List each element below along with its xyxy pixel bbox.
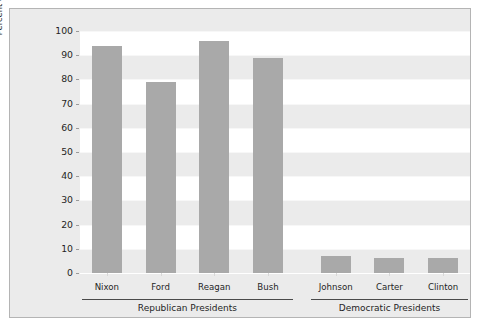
y-tick-mark xyxy=(76,104,79,105)
y-axis-title: Percent of Nominees Affiliated with Repu… xyxy=(0,0,4,45)
x-axis: NixonFordReaganBushJohnsonCarterClintonR… xyxy=(80,273,470,319)
group-label: Democratic Presidents xyxy=(311,303,468,313)
bar xyxy=(92,46,122,273)
plot-area xyxy=(80,31,470,273)
bar xyxy=(428,258,458,273)
y-axis-tick-labels: 0102030405060708090100 xyxy=(43,31,73,273)
y-tick-mark xyxy=(76,128,79,129)
gridline xyxy=(80,55,470,56)
x-tick-mark xyxy=(336,273,337,276)
y-tick-label: 50 xyxy=(47,147,73,156)
x-tick-mark xyxy=(443,273,444,276)
x-tick-label: Carter xyxy=(363,282,417,292)
bar xyxy=(374,258,404,273)
x-tick-mark xyxy=(107,273,108,276)
y-tick-mark xyxy=(76,79,79,80)
y-tick-label: 20 xyxy=(47,220,73,229)
y-tick-mark xyxy=(76,225,79,226)
x-tick-label: Clinton xyxy=(416,282,470,292)
x-tick-mark xyxy=(389,273,390,276)
y-tick-mark xyxy=(76,31,79,32)
x-tick-label: Ford xyxy=(134,282,188,292)
y-tick-mark xyxy=(76,176,79,177)
group-rule xyxy=(82,299,293,300)
x-tick-mark xyxy=(161,273,162,276)
y-tick-label: 60 xyxy=(47,123,73,132)
gridline xyxy=(80,31,470,32)
chart-panel: Percent of Nominees Affiliated with Repu… xyxy=(9,8,471,318)
x-tick-label: Johnson xyxy=(309,282,363,292)
x-tick-mark xyxy=(268,273,269,276)
y-tick-label: 80 xyxy=(47,74,73,83)
y-tick-label: 30 xyxy=(47,195,73,204)
y-tick-mark xyxy=(76,273,79,274)
y-tick-label: 10 xyxy=(47,244,73,253)
y-tick-mark xyxy=(76,200,79,201)
y-tick-mark xyxy=(76,152,79,153)
x-tick-mark xyxy=(214,273,215,276)
x-tick-label: Bush xyxy=(241,282,295,292)
bar xyxy=(253,58,283,273)
y-tick-mark xyxy=(76,249,79,250)
plot-band xyxy=(80,31,470,55)
y-tick-label: 100 xyxy=(47,26,73,35)
bar xyxy=(199,41,229,273)
y-tick-label: 70 xyxy=(47,99,73,108)
y-tick-label: 90 xyxy=(47,50,73,59)
group-label: Republican Presidents xyxy=(82,303,293,313)
chart-figure: Percent of Nominees Affiliated with Repu… xyxy=(0,0,492,329)
y-tick-mark xyxy=(76,55,79,56)
group-rule xyxy=(311,299,468,300)
x-tick-label: Nixon xyxy=(80,282,134,292)
bar xyxy=(146,82,176,273)
y-tick-label: 0 xyxy=(47,268,73,277)
y-tick-label: 40 xyxy=(47,171,73,180)
x-tick-label: Reagan xyxy=(187,282,241,292)
bar xyxy=(321,256,351,273)
